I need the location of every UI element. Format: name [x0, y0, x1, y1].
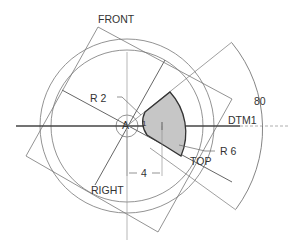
center-point-label: A [122, 119, 129, 131]
linear-dimension-label[interactable]: 4 [141, 167, 147, 179]
r2-leader [117, 97, 141, 115]
top-plane-label[interactable]: TOP [190, 155, 211, 167]
sketch-canvas: FRONT R 2 A 1 80 DTM1 R 6 TOP 4 RIGHT [0, 0, 288, 241]
r6-dimension-label[interactable]: R 6 [220, 145, 237, 157]
dtm1-label[interactable]: DTM1 [228, 114, 257, 126]
angle-dimension-label[interactable]: 80 [254, 95, 266, 107]
front-plane-line[interactable] [62, 90, 232, 182]
front-plane-label[interactable]: FRONT [98, 13, 135, 25]
r2-dimension-label[interactable]: R 2 [90, 92, 107, 104]
shaded-sector[interactable] [143, 92, 186, 156]
right-plane-label[interactable]: RIGHT [91, 184, 124, 196]
center-sub-label: 1 [142, 119, 147, 128]
